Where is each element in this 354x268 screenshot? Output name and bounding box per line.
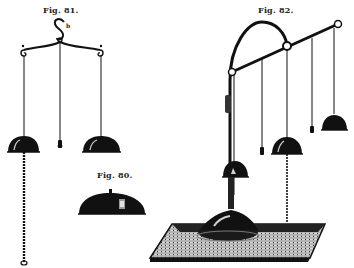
pendulum-weight-icon: [260, 147, 264, 155]
engraving-canvas: Fig. 81. Fig. 80. Fig. 82. b: [0, 0, 354, 268]
lamp-shade-icon: [7, 136, 40, 152]
lamp-shade-icon: [321, 115, 348, 130]
pedestal-base: [197, 210, 259, 241]
pendulum-weight-icon: [58, 140, 63, 148]
s-hook-icon: [55, 19, 64, 40]
lamp-shade-icon: [271, 137, 303, 154]
fig-80-bell-shade: [78, 189, 146, 214]
pivot-joint-icon: [229, 69, 236, 76]
lamp-shade-icon: [222, 161, 249, 177]
pivot-joint-icon: [283, 42, 291, 50]
chain-ring-icon: [21, 261, 27, 265]
fig-82-apparatus: [150, 21, 348, 263]
pivot-joint-icon: [335, 21, 342, 28]
crossbar: [24, 42, 100, 50]
lamp-shade-icon: [82, 136, 121, 152]
pendulum-weight-icon: [310, 126, 314, 133]
fig-81-apparatus: [7, 19, 121, 265]
